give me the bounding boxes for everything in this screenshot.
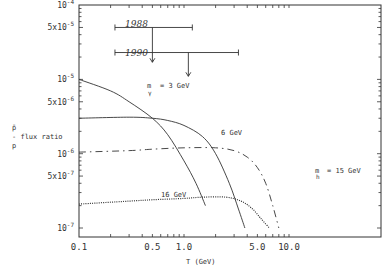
plot-frame xyxy=(79,5,381,237)
annotation-1990: 1990 xyxy=(125,48,148,58)
annotation-15gev: m h = 15 GeV xyxy=(315,167,362,180)
x-tick-label: 5.0 xyxy=(249,242,265,252)
y-tick-label: 10-6 xyxy=(57,147,74,159)
y-axis-ticks: 10-45x10-510-55x10-610-65x10-710-7 xyxy=(48,0,382,233)
svg-text:h: h xyxy=(316,173,320,180)
annotation-6gev: 6 GeV xyxy=(221,129,243,137)
y-tick-label: 5x10-7 xyxy=(48,169,75,181)
y-tick-label: 5x10-6 xyxy=(48,95,75,107)
series-6-gev xyxy=(79,117,245,228)
series-m-gamma-3-gev xyxy=(79,79,205,205)
x-axis-ticks: 0.10.51.05.010.0 xyxy=(71,5,300,252)
x-tick-label: 1.0 xyxy=(176,242,192,252)
x-tick-label: 10.0 xyxy=(278,242,300,252)
x-axis-label: T (GeV) xyxy=(186,258,216,266)
annotation-1988: 1988 xyxy=(125,19,148,29)
y-axis-label-bottom: p xyxy=(12,142,16,150)
annotation-3gev: m γ = 3 GeV xyxy=(147,82,190,97)
y-axis-label-top: p̄ xyxy=(12,124,16,132)
annotation-16gev: 16 GeV xyxy=(161,191,187,199)
svg-text:= 15 GeV: = 15 GeV xyxy=(327,167,362,175)
data-series xyxy=(79,79,279,228)
y-tick-label: 5x10-5 xyxy=(48,20,75,32)
y-axis-label-mid: - flux ratio xyxy=(12,133,63,141)
svg-text:γ: γ xyxy=(148,89,152,97)
series-m-h-15-gev xyxy=(79,148,279,228)
flux-ratio-chart: 0.10.51.05.010.0 10-45x10-510-55x10-610-… xyxy=(0,0,387,272)
y-tick-label: 10-5 xyxy=(57,72,74,84)
y-tick-label: 10-7 xyxy=(57,221,74,233)
x-tick-label: 0.5 xyxy=(144,242,160,252)
series-16-gev xyxy=(79,197,269,228)
y-tick-label: 10-4 xyxy=(57,0,74,10)
x-tick-label: 0.1 xyxy=(71,242,87,252)
svg-text:= 3 GeV: = 3 GeV xyxy=(160,82,190,90)
